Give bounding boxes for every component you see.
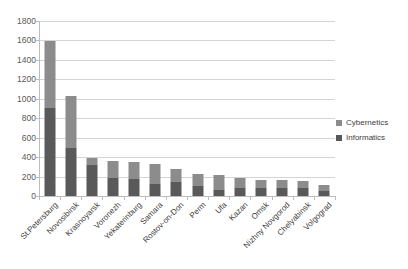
bar-segment-cybernetics	[44, 41, 55, 107]
bar-segment-informatics	[298, 188, 309, 196]
x-axis-label-kazan: Kazan	[228, 201, 250, 223]
bar-segment-informatics	[277, 188, 288, 196]
bar-segment-informatics	[171, 182, 182, 196]
x-axis-label-rostov-on-don: Rostov-on-Don	[142, 201, 186, 245]
x-tick-mark	[314, 196, 315, 200]
x-tick-mark	[145, 196, 146, 200]
bar-slot	[314, 21, 335, 196]
bar-segment-informatics	[65, 148, 76, 196]
x-tick-mark	[102, 196, 103, 200]
x-tick-mark	[166, 196, 167, 200]
bar-slot	[187, 21, 208, 196]
bar-slot	[208, 21, 229, 196]
legend-swatch-informatics	[336, 135, 342, 141]
x-axis-category-labels: St.PetersburgNovosibirskKrasnoyarskVoron…	[39, 201, 379, 269]
bar-segment-informatics	[107, 178, 118, 196]
y-axis-tick-labels: 180016001400120010008006004002000	[0, 21, 36, 196]
bar-stack[interactable]	[192, 174, 203, 196]
x-axis-label-perm: Perm	[188, 201, 207, 220]
bar-stack[interactable]	[277, 180, 288, 197]
x-tick-mark	[208, 196, 209, 200]
bar-slot	[293, 21, 314, 196]
legend-item-informatics[interactable]: Informatics	[336, 133, 408, 143]
legend-label: Cybernetics	[346, 119, 388, 127]
x-tick-mark	[187, 196, 188, 200]
bars-layer	[39, 21, 335, 196]
x-tick-mark	[272, 196, 273, 200]
bar-stack[interactable]	[234, 178, 245, 196]
bar-segment-informatics	[44, 108, 55, 196]
bar-segment-cybernetics	[192, 174, 203, 186]
legend-swatch-cybernetics	[336, 120, 342, 126]
bar-stack[interactable]	[298, 181, 309, 196]
bar-segment-cybernetics	[255, 180, 266, 188]
bar-slot	[60, 21, 81, 196]
x-tick-mark	[60, 196, 61, 200]
bar-stack[interactable]	[86, 158, 97, 196]
bar-segment-informatics	[150, 184, 161, 196]
y-tick-label-200: 200	[2, 172, 36, 181]
bar-slot	[166, 21, 187, 196]
bar-segment-cybernetics	[86, 158, 97, 165]
bar-segment-cybernetics	[213, 175, 224, 191]
bar-stack[interactable]	[107, 161, 118, 196]
bar-segment-informatics	[129, 179, 140, 197]
legend-item-cybernetics[interactable]: Cybernetics	[336, 118, 408, 128]
bar-stack[interactable]	[65, 96, 76, 196]
bar-stack[interactable]	[129, 162, 140, 197]
x-tick-mark	[81, 196, 82, 200]
bar-segment-cybernetics	[298, 181, 309, 188]
bar-slot	[124, 21, 145, 196]
y-tick-label-1200: 1200	[2, 75, 36, 84]
bar-segment-informatics	[234, 188, 245, 196]
bar-slot	[145, 21, 166, 196]
bar-segment-informatics	[192, 186, 203, 196]
x-tick-mark	[229, 196, 230, 200]
y-tick-label-800: 800	[2, 114, 36, 123]
chart-legend: CyberneticsInformatics	[336, 118, 408, 148]
bar-segment-cybernetics	[107, 161, 118, 179]
y-tick-label-1000: 1000	[2, 95, 36, 104]
x-tick-mark	[124, 196, 125, 200]
bar-chart: 180016001400120010008006004002000 St.Pet…	[0, 0, 408, 269]
x-tick-mark	[250, 196, 251, 200]
bar-segment-cybernetics	[150, 164, 161, 184]
legend-label: Informatics	[346, 134, 385, 142]
y-tick-label-0: 0	[2, 192, 36, 201]
bar-slot	[250, 21, 271, 196]
x-tick-mark	[39, 196, 40, 200]
y-tick-label-600: 600	[2, 133, 36, 142]
x-axis-label-ufa: Ufa	[214, 201, 228, 215]
bar-slot	[229, 21, 250, 196]
bar-slot	[272, 21, 293, 196]
y-tick-label-1600: 1600	[2, 36, 36, 45]
bar-segment-cybernetics	[129, 162, 140, 179]
bar-segment-cybernetics	[65, 96, 76, 149]
bar-slot	[81, 21, 102, 196]
bar-stack[interactable]	[44, 41, 55, 196]
x-tick-mark	[293, 196, 294, 200]
y-tick-label-1800: 1800	[2, 17, 36, 26]
y-tick-label-400: 400	[2, 153, 36, 162]
bar-stack[interactable]	[319, 185, 330, 196]
bar-stack[interactable]	[150, 164, 161, 196]
bar-segment-cybernetics	[277, 180, 288, 188]
x-tick-mark	[335, 196, 336, 200]
bar-segment-informatics	[255, 188, 266, 196]
y-tick-label-1400: 1400	[2, 56, 36, 65]
bar-segment-cybernetics	[234, 178, 245, 189]
bar-slot	[102, 21, 123, 196]
bar-segment-informatics	[86, 165, 97, 196]
bar-stack[interactable]	[255, 180, 266, 197]
bar-stack[interactable]	[213, 175, 224, 196]
bar-segment-cybernetics	[171, 169, 182, 182]
bar-stack[interactable]	[171, 169, 182, 196]
bar-slot	[39, 21, 60, 196]
